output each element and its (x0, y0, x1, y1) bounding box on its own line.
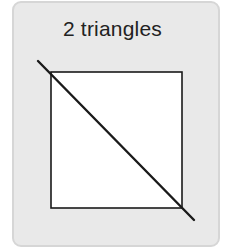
square-diagram (0, 0, 225, 251)
